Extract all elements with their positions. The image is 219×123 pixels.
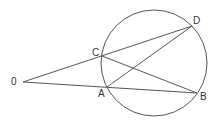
geometry-diagram: 0 C D A B <box>0 0 219 123</box>
diagram-canvas <box>0 0 219 123</box>
label-B: B <box>200 92 207 102</box>
label-O: 0 <box>11 77 17 87</box>
segment-OB <box>23 82 197 93</box>
label-D: D <box>193 16 200 26</box>
segment-OD <box>23 26 192 82</box>
label-C: C <box>92 48 99 58</box>
segment-AD <box>107 26 192 87</box>
label-A: A <box>98 89 105 99</box>
